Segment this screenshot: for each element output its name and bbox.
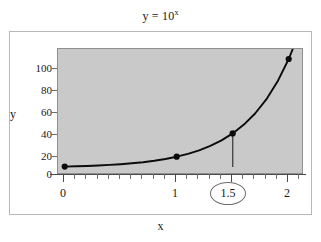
data-point-marker: [174, 154, 180, 160]
data-point-marker: [62, 164, 68, 170]
x-tick-minor: [74, 174, 75, 179]
x-tick-label: 2: [267, 186, 307, 201]
x-tick-minor: [108, 174, 109, 179]
x-tick-minor: [85, 174, 86, 179]
y-tick-label: 80: [18, 85, 52, 96]
chart-title-text: y = 10: [142, 9, 174, 23]
data-point-marker: [230, 130, 236, 136]
x-tick-major: [287, 174, 288, 182]
x-tick-minor: [141, 174, 142, 179]
x-tick-minor: [276, 174, 277, 179]
plot-svg: [58, 49, 303, 174]
y-tick-label: 40: [18, 129, 52, 140]
x-tick-minor: [153, 174, 154, 179]
x-tick-major: [231, 174, 232, 182]
x-tick-major: [175, 174, 176, 182]
x-tick-minor: [265, 174, 266, 179]
y-tick-label: 100: [18, 63, 52, 74]
x-tick-label: 0: [43, 186, 83, 201]
x-tick-minor: [164, 174, 165, 179]
plot-area: [57, 48, 303, 174]
y-tick-label: 60: [18, 107, 52, 118]
x-tick-minor: [197, 174, 198, 179]
data-point-marker: [286, 56, 292, 62]
chart-title-exponent: x: [174, 8, 178, 17]
x-tick-minor: [298, 174, 299, 179]
x-tick-minor: [130, 174, 131, 179]
x-axis-label: x: [0, 219, 321, 234]
exponential-curve: [65, 49, 295, 167]
x-axis-tick-marks: [0, 174, 321, 184]
x-tick-minor: [253, 174, 254, 179]
x-tick-minor: [209, 174, 210, 179]
x-tick-minor: [220, 174, 221, 179]
x-tick-minor: [119, 174, 120, 179]
circle-highlight-annotation: [210, 182, 246, 205]
x-tick-minor: [242, 174, 243, 179]
x-tick-label: 1: [155, 186, 195, 201]
x-tick-minor: [97, 174, 98, 179]
x-tick-major: [63, 174, 64, 182]
chart-figure: y = 10x y 100 80 60 40 20 0: [0, 0, 321, 242]
y-axis-tick-labels: 100 80 60 40 20 0: [16, 0, 52, 242]
y-tick-label: 20: [18, 151, 52, 162]
x-tick-minor: [186, 174, 187, 179]
